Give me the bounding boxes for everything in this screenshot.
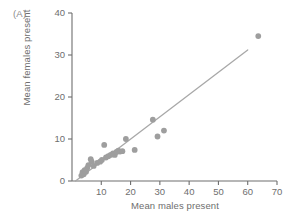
svg-text:10: 10 [96, 186, 107, 197]
data-point [150, 117, 156, 123]
svg-text:30: 30 [155, 186, 166, 197]
data-point [119, 148, 125, 154]
data-point [123, 136, 129, 142]
data-points [78, 33, 261, 178]
data-point [155, 134, 161, 140]
data-point [255, 33, 261, 39]
svg-text:0: 0 [60, 175, 65, 186]
svg-text:30: 30 [54, 49, 65, 60]
chart-figure: (A) Mean females present Mean males pres… [0, 0, 286, 222]
scatter-plot: 01020304010203040506070 [0, 0, 286, 222]
svg-text:20: 20 [125, 186, 136, 197]
svg-text:10: 10 [54, 133, 65, 144]
svg-text:40: 40 [184, 186, 195, 197]
data-point [101, 142, 107, 148]
svg-text:60: 60 [242, 186, 253, 197]
svg-text:50: 50 [213, 186, 224, 197]
axes [72, 13, 277, 181]
data-point [161, 128, 167, 134]
data-point [132, 147, 138, 153]
svg-text:20: 20 [54, 91, 65, 102]
svg-text:70: 70 [272, 186, 283, 197]
svg-text:40: 40 [54, 7, 65, 18]
